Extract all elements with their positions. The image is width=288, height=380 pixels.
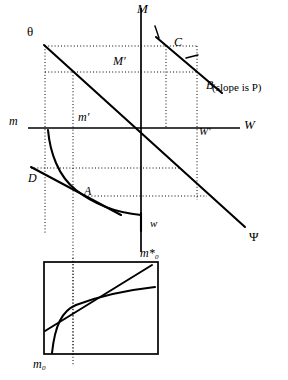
inset-y-label: m*₀ [140,247,159,259]
W-prime-label: W′ [199,126,211,137]
m-axis-label: m [9,115,18,127]
psi-label: Ψ [249,230,259,243]
slope-note-label: (slope is P) [212,82,262,93]
w-small-label: w [150,218,157,229]
inset-panel [44,258,158,356]
inset-box [44,262,158,354]
tangent-line-d [31,167,121,215]
point-D-label: D [28,172,37,184]
vertical-axis-label: M [137,2,148,15]
economics-diagram: M W θ Ψ C B A D m m′ M′ W′ w (slope is P… [0,0,288,380]
guide-lines [31,46,207,366]
m-prime-label: m′ [78,111,89,123]
theta-label: θ [27,25,33,38]
diagram-canvas [0,0,288,380]
inset-x-label: m₀ [33,358,46,370]
p-slope-tick-lower-icon [186,55,198,58]
point-A-label: A [84,185,91,197]
convex-curve [48,130,141,215]
M-prime-label: M′ [113,55,126,67]
horizontal-axis-label: W [244,118,255,131]
point-C-label: C [174,36,182,48]
inset-concave-curve [52,287,155,353]
